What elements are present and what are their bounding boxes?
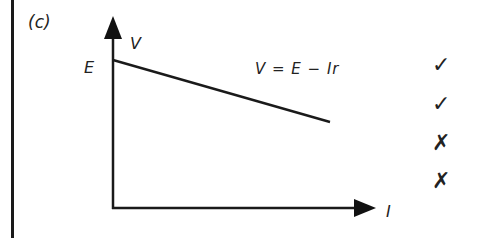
- x-axis-label: I: [386, 202, 391, 221]
- emf-intercept-label: E: [84, 58, 94, 77]
- equation-label: V = E − Ir: [255, 60, 340, 78]
- y-axis-label: V: [130, 34, 141, 53]
- x-axis-arrowhead: [354, 199, 376, 217]
- tick-mark-icon: ✓: [432, 52, 450, 77]
- vi-graph: [0, 0, 482, 238]
- cross-mark-icon: ✗: [432, 168, 450, 193]
- y-axis-arrowhead: [104, 16, 122, 39]
- cross-mark-icon: ✗: [432, 130, 450, 155]
- tick-mark-icon: ✓: [432, 91, 450, 116]
